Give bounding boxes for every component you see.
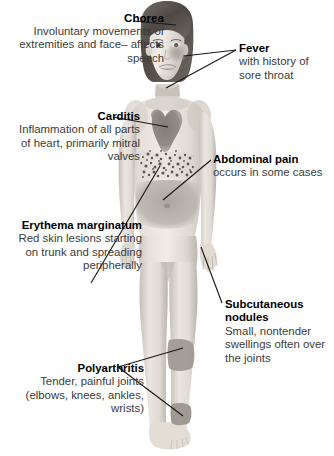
callout-polyarthritis-body: Tender, painful joints (elbows, knees, a… xyxy=(4,375,144,415)
callout-fever-body: with history of sore throat xyxy=(239,55,331,82)
callout-fever-title: Fever xyxy=(239,42,331,55)
callout-polyarthritis-title: Polyarthritis xyxy=(4,362,144,375)
callout-erythema-marginatum-body: Red skin lesions starting on trunk and s… xyxy=(6,232,142,272)
diagram-canvas: Chorea Involuntary movements of extremit… xyxy=(0,0,334,456)
callout-carditis-body: Inflammation of all parts of heart, prim… xyxy=(10,123,140,163)
callout-polyarthritis: Polyarthritis Tender, painful joints (el… xyxy=(4,362,144,416)
marker-abdomen xyxy=(136,180,199,229)
callout-abdominal-pain-body: occurs in some cases xyxy=(213,166,331,179)
marker-flushed-cheek xyxy=(166,43,188,63)
marker-knee-joint xyxy=(168,339,195,371)
callout-abdominal-pain: Abdominal pain occurs in some cases xyxy=(213,153,331,180)
callout-fever: Fever with history of sore throat xyxy=(239,42,331,82)
callout-subcutaneous-nodules-body: Small, nontender swellings often over th… xyxy=(225,325,331,365)
callout-subcutaneous-nodules-title: Subcutaneous nodules xyxy=(225,298,331,325)
callout-carditis: Carditis Inflammation of all parts of he… xyxy=(10,110,140,164)
callout-erythema-marginatum-title: Erythema marginatum xyxy=(6,219,142,232)
callout-subcutaneous-nodules: Subcutaneous nodules Small, nontender sw… xyxy=(225,298,331,365)
callout-erythema-marginatum: Erythema marginatum Red skin lesions sta… xyxy=(6,219,142,273)
callout-abdominal-pain-title: Abdominal pain xyxy=(213,153,331,166)
callout-chorea-body: Involuntary movements of extremities and… xyxy=(4,25,164,65)
callout-chorea-title: Chorea xyxy=(4,11,164,25)
callout-carditis-title: Carditis xyxy=(10,110,140,123)
marker-rash-erythema xyxy=(139,150,197,178)
callout-chorea: Chorea Involuntary movements of extremit… xyxy=(4,11,164,65)
